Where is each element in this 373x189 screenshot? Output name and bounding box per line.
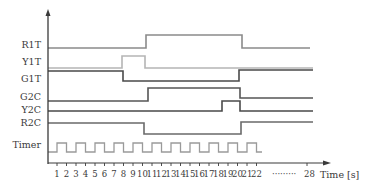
signal-label-y1t: Y1T xyxy=(21,56,41,67)
tick-label-8: 8 xyxy=(121,169,126,179)
signal-label-g2c: G2C xyxy=(20,91,41,102)
tick-label-4: 4 xyxy=(83,169,88,179)
tick-label-28: 28 xyxy=(304,169,315,179)
signal-traces xyxy=(48,35,313,152)
x-axis-ticks: 12345678910111213141516171819202122 xyxy=(54,163,307,179)
signal-g1t xyxy=(48,70,313,81)
tick-label-6: 6 xyxy=(102,169,107,179)
signal-label-r1t: R1T xyxy=(21,39,41,50)
tick-label-22: 22 xyxy=(251,169,262,179)
tick-label-1: 1 xyxy=(54,169,59,179)
x-axis-label: Time [s] xyxy=(320,169,359,180)
timing-diagram: R1TY1TG1TG2CY2CR2CTimer 1234567891011121… xyxy=(0,0,373,189)
tick-label-7: 7 xyxy=(111,169,116,179)
signal-r1t xyxy=(48,35,310,48)
signal-label-timer: Timer xyxy=(12,139,41,150)
signal-g2c xyxy=(48,88,313,101)
signal-timer xyxy=(48,143,262,152)
signal-y1t xyxy=(48,56,313,68)
axis-ellipsis: ········· xyxy=(272,169,296,179)
signal-r2c xyxy=(48,122,313,134)
signal-label-r2c: R2C xyxy=(21,117,41,128)
signal-label-g1t: G1T xyxy=(21,73,42,84)
tick-label-5: 5 xyxy=(92,169,97,179)
tick-label-2: 2 xyxy=(64,169,69,179)
y-axis-arrow-icon xyxy=(46,9,51,16)
signal-y2c xyxy=(48,101,313,111)
tick-label-3: 3 xyxy=(73,169,78,179)
signal-labels: R1TY1TG1TG2CY2CR2CTimer xyxy=(12,39,41,150)
tick-label-9: 9 xyxy=(130,169,135,179)
signal-label-y2c: Y2C xyxy=(20,104,41,115)
x-axis-arrow-icon xyxy=(323,161,331,166)
